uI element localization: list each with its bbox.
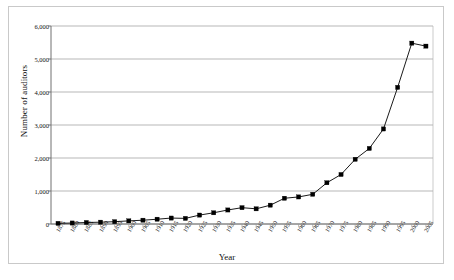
data-point-marker — [155, 217, 159, 221]
data-point-marker — [70, 221, 74, 225]
data-point-marker — [339, 172, 343, 176]
data-point-marker — [268, 203, 272, 207]
data-point-marker — [127, 219, 131, 223]
data-point-marker — [325, 181, 329, 185]
data-point-marker — [282, 196, 286, 200]
line-chart: Number of auditors Year 01,0002,0003,000… — [0, 0, 454, 280]
data-point-marker — [141, 218, 145, 222]
data-point-marker — [367, 146, 371, 150]
data-point-marker — [353, 157, 357, 161]
data-point-marker — [197, 213, 201, 217]
data-point-marker — [212, 211, 216, 215]
data-point-marker — [169, 216, 173, 220]
data-series-line — [58, 43, 426, 223]
plot-area — [0, 0, 454, 280]
data-point-marker — [410, 41, 414, 45]
data-point-marker — [254, 207, 258, 211]
data-point-marker — [183, 216, 187, 220]
data-point-marker — [56, 221, 60, 225]
data-point-marker — [113, 220, 117, 224]
data-point-marker — [98, 220, 102, 224]
data-point-marker — [424, 44, 428, 48]
data-point-marker — [226, 208, 230, 212]
data-point-marker — [396, 85, 400, 89]
data-point-marker — [84, 220, 88, 224]
data-point-marker — [296, 195, 300, 199]
data-point-marker — [381, 127, 385, 131]
data-point-marker — [311, 192, 315, 196]
data-point-marker — [240, 206, 244, 210]
